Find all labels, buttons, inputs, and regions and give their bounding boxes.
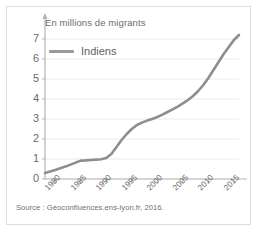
y-tick-label: 3 <box>25 112 39 124</box>
chart-figure: En millions de migrants Indiens 01234567… <box>0 0 257 231</box>
legend-swatch-indiens <box>49 50 74 53</box>
y-tick-label: 4 <box>25 92 39 104</box>
chart-legend: Indiens <box>49 45 116 57</box>
y-tick-label: 2 <box>25 132 39 144</box>
y-tick-label: 5 <box>25 72 39 84</box>
y-tick-label: 1 <box>25 152 39 164</box>
line-chart-svg <box>7 7 252 226</box>
chart-plot-area: En millions de migrants Indiens 01234567… <box>7 7 252 226</box>
source-note: Source : Géoconfluences.ens-lyon.fr, 201… <box>16 203 164 212</box>
legend-label-indiens: Indiens <box>81 45 116 57</box>
y-tick-label: 7 <box>25 32 39 44</box>
y-tick-label: 0 <box>25 172 39 184</box>
axis-title: En millions de migrants <box>45 17 146 28</box>
y-tick-label: 6 <box>25 52 39 64</box>
figure-frame: En millions de migrants Indiens 01234567… <box>6 6 251 225</box>
